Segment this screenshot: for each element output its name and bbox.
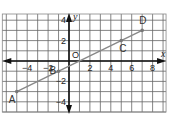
point-label-c: C: [119, 43, 126, 54]
x-tick-label: 2: [87, 63, 92, 73]
point-label-b: B: [50, 65, 57, 76]
arrow-left-icon: [2, 58, 11, 64]
point-label-d: D: [139, 15, 146, 26]
x-tick-label: 8: [150, 63, 155, 73]
origin-label: O: [72, 50, 79, 60]
y-axis-label: y: [72, 11, 78, 22]
y-tick-label: −4: [56, 97, 66, 107]
point-a: [15, 90, 19, 94]
y-tick-label: −2: [56, 76, 66, 86]
coordinate-plane: −4−2246842−2−4 ABCD x y O: [0, 0, 172, 121]
y-tick-label: 4: [61, 15, 66, 25]
x-axis-label: x: [160, 48, 166, 59]
point-d: [140, 29, 144, 33]
x-tick-label: −4: [22, 63, 32, 73]
arrow-down-icon: [66, 105, 72, 114]
x-tick-label: 4: [108, 63, 113, 73]
point-b: [57, 69, 61, 73]
x-tick-label: 6: [129, 63, 134, 73]
y-tick-label: 2: [61, 36, 66, 46]
point-label-a: A: [9, 94, 16, 105]
